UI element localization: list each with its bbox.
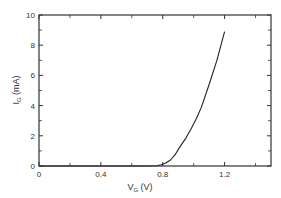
series-group: [39, 32, 225, 166]
y-tick-label: 10: [26, 11, 35, 20]
chart: 00.40.81.2 0246810 VG (V) IG (mA): [0, 0, 281, 198]
y-tick-label: 2: [31, 132, 36, 141]
plot-area-border: [39, 15, 271, 166]
y-tick-label: 6: [31, 71, 36, 80]
y-tick-label: 4: [31, 102, 36, 111]
y-axis-ticks: 0246810: [26, 11, 271, 171]
x-tick-label: 0: [37, 170, 42, 179]
y-axis-label: IG (mA): [11, 75, 22, 104]
series-line: [39, 32, 225, 166]
x-tick-label: 0.8: [157, 170, 169, 179]
plot-frame: [39, 15, 271, 166]
y-tick-label: 0: [31, 162, 36, 171]
x-tick-label: 0.4: [95, 170, 107, 179]
x-axis-label: VG (V): [127, 182, 152, 193]
x-tick-label: 1.2: [219, 170, 231, 179]
y-tick-label: 8: [31, 41, 36, 50]
